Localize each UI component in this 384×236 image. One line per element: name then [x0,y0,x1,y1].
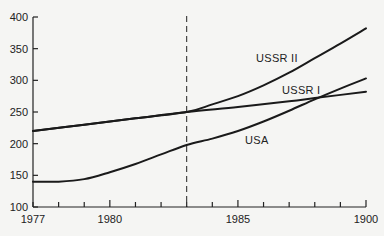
y-axis: 100150200250300350400 [10,11,38,213]
label-ussr-ii: USSR II [256,52,298,64]
y-tick-label: 350 [10,43,28,55]
label-usa: USA [245,134,269,146]
series-lines [33,28,366,181]
x-tick-label: 1977 [21,213,45,225]
series-ussr-ii [33,28,366,131]
y-tick-label: 400 [10,11,28,23]
y-tick-label: 200 [10,138,28,150]
y-tick-label: 150 [10,169,28,181]
label-ussr-i: USSR I [282,84,320,96]
series-ussr-i [33,92,366,131]
x-tick-label: 1980 [98,213,122,225]
x-axis: 1977198019851900 [21,200,378,225]
x-tick-label: 1985 [226,213,250,225]
y-tick-label: 300 [10,74,28,86]
x-tick-label: 1900 [354,213,378,225]
y-tick-label: 250 [10,106,28,118]
line-chart: 100150200250300350400 1977198019851900 U… [0,0,384,236]
y-tick-label: 100 [10,201,28,213]
